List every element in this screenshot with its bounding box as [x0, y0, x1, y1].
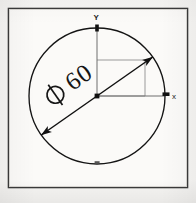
scanned-drawing-canvas: 60 Y x — [0, 0, 196, 203]
x-axis-label: x [172, 92, 176, 101]
y-axis-label: Y [94, 13, 100, 22]
figure-caption-strip: — [0, 189, 196, 203]
technical-drawing-figure: 60 Y x [0, 0, 196, 203]
figure-caption-text: — [93, 196, 102, 203]
circle-bottom-tick [95, 161, 100, 163]
x-axis-tick [163, 92, 170, 96]
